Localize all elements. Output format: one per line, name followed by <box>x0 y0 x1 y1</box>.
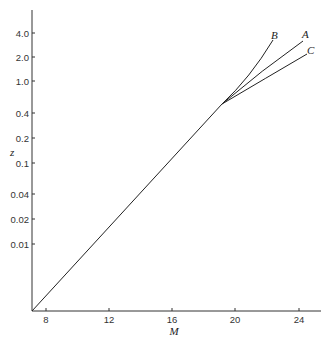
series-a-curve <box>222 41 303 104</box>
y-tick-labels: 4.0 2.0 1.0 0.4 0.2 0.1 0.04 0.02 0.01 <box>11 28 30 250</box>
y-tick-label: 4.0 <box>16 28 29 39</box>
y-tick-label: 1.0 <box>16 76 29 87</box>
y-tick-label: 2.0 <box>16 52 29 63</box>
x-tick-label: 20 <box>230 314 241 325</box>
x-axis-label: M <box>168 325 179 337</box>
y-tick-label: 0.2 <box>16 133 29 144</box>
y-tick-label: 0.01 <box>11 239 30 250</box>
series-c-curve <box>222 54 307 104</box>
x-tick-label: 8 <box>43 314 48 325</box>
curve-label-c: C <box>307 44 315 56</box>
y-tick-label: 0.1 <box>16 158 29 169</box>
y-axis-label: z <box>9 146 15 158</box>
x-tick-label: 24 <box>294 314 305 325</box>
series-b-curve <box>222 40 273 104</box>
y-tick-label: 0.04 <box>11 189 30 200</box>
y-tick-label: 0.4 <box>16 108 29 119</box>
x-tick-labels: 8 12 16 20 24 <box>43 314 304 325</box>
curve-label-b: B <box>271 29 278 41</box>
x-tick-label: 16 <box>167 314 178 325</box>
chart: 4.0 2.0 1.0 0.4 0.2 0.1 0.04 0.02 0.01 z… <box>0 0 333 343</box>
series-common-line <box>32 104 222 311</box>
x-tick-label: 12 <box>104 314 115 325</box>
curve-label-a: A <box>301 28 309 40</box>
y-tick-label: 0.02 <box>11 214 30 225</box>
